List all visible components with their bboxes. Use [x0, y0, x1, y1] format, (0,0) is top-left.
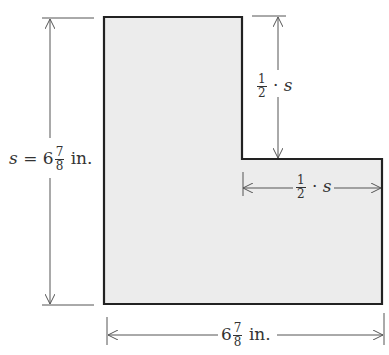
- l-shape: [104, 17, 382, 304]
- step-width-label: 12 · s: [295, 174, 332, 200]
- step-height-label: 12 · s: [256, 73, 293, 99]
- fraction: 12: [296, 174, 306, 200]
- bottom-width-label: 678 in.: [221, 322, 271, 348]
- left-height-label: s = 678 in.: [9, 146, 92, 172]
- fraction: 78: [55, 146, 65, 172]
- fraction: 78: [233, 322, 243, 348]
- fraction: 12: [257, 73, 267, 99]
